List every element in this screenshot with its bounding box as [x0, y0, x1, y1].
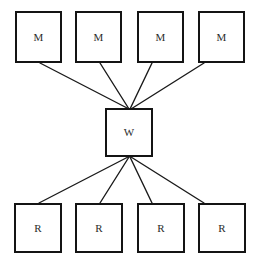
node-reducer-2[interactable]: R [75, 203, 123, 253]
node-label: M [94, 32, 104, 43]
diagram-canvas: M M M M W R R R R [0, 0, 253, 265]
node-reducer-4[interactable]: R [198, 203, 246, 253]
node-worker[interactable]: W [105, 108, 153, 157]
node-label: R [34, 223, 42, 234]
node-mapper-2[interactable]: M [75, 11, 122, 63]
node-label: R [95, 223, 103, 234]
node-reducer-1[interactable]: R [14, 203, 62, 253]
edge-m1-to-w1 [40, 63, 129, 109]
node-mapper-1[interactable]: M [15, 11, 62, 63]
node-reducer-3[interactable]: R [137, 203, 185, 253]
edge-w1-to-r4 [131, 157, 204, 203]
node-label: R [157, 223, 165, 234]
node-label: M [34, 32, 44, 43]
node-label: W [124, 127, 135, 138]
node-label: R [218, 223, 226, 234]
node-label: M [217, 32, 227, 43]
edge-m4-to-w1 [131, 63, 204, 109]
node-mapper-3[interactable]: M [137, 11, 184, 63]
node-mapper-4[interactable]: M [198, 11, 245, 63]
node-label: M [156, 32, 166, 43]
